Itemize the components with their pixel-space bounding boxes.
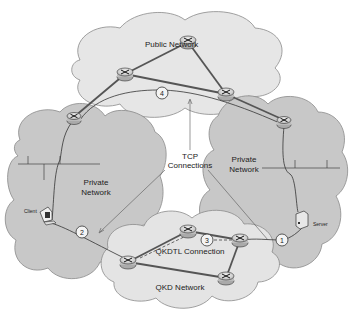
private-network-left-label-line1: Private bbox=[84, 178, 109, 187]
private-network-left-label-line2: Network bbox=[81, 188, 111, 197]
private-network-right-label-line2: Network bbox=[229, 165, 259, 174]
svg-text:3: 3 bbox=[205, 237, 209, 244]
server-label: Server bbox=[313, 221, 328, 227]
router-icon bbox=[67, 113, 81, 125]
marker-3: 3 bbox=[201, 234, 213, 246]
svg-text:1: 1 bbox=[280, 237, 284, 244]
router-icon bbox=[277, 117, 291, 129]
router-icon bbox=[120, 256, 136, 269]
server-icon bbox=[296, 211, 308, 229]
router-icon bbox=[218, 88, 234, 101]
tcp-label-line1: TCP bbox=[182, 152, 198, 161]
router-icon bbox=[232, 234, 248, 247]
router-icon bbox=[180, 225, 196, 238]
marker-1: 1 bbox=[276, 234, 288, 246]
qkd-network-label: QKD Network bbox=[156, 283, 206, 292]
network-diagram: 1 2 3 4 Public Network Private Network P… bbox=[0, 0, 354, 324]
marker-2: 2 bbox=[76, 226, 88, 238]
private-network-right-label-line1: Private bbox=[232, 155, 257, 164]
svg-text:4: 4 bbox=[160, 90, 164, 97]
router-icon bbox=[218, 272, 234, 285]
svg-text:2: 2 bbox=[80, 229, 84, 236]
client-label: Client bbox=[24, 208, 37, 214]
marker-4: 4 bbox=[156, 87, 168, 99]
router-icon bbox=[117, 68, 133, 81]
public-network-label: Public Network bbox=[145, 40, 199, 49]
tcp-label-line2: Connections bbox=[168, 161, 212, 170]
qkdtl-connection-label: QKDTL Connection bbox=[155, 247, 224, 256]
